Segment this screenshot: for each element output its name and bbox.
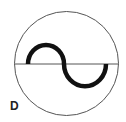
sine-wave-icon: [28, 45, 106, 86]
diagram-label: D: [10, 100, 19, 112]
